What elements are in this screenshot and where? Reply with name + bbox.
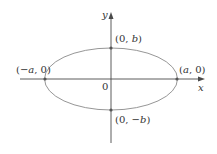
vertex-point-left [43, 77, 46, 80]
origin-label: 0 [102, 81, 108, 92]
vertex-point-right [175, 77, 178, 80]
x-axis-arrow-icon [198, 77, 205, 82]
y-axis-label: y [101, 9, 108, 20]
x-axis-label: x [198, 82, 204, 93]
point-label-right: (a, 0) [179, 64, 206, 75]
vertex-point-top [109, 46, 112, 49]
vertex-point-bottom [109, 108, 112, 111]
ellipse-diagram: y x 0 (0, b) (0, −b) (−a, 0) (a, 0) [0, 0, 217, 154]
point-label-top: (0, b) [115, 33, 142, 44]
point-label-left: (−a, 0) [16, 64, 51, 75]
y-axis-arrow-icon [109, 12, 114, 19]
point-label-bottom: (0, −b) [115, 114, 150, 125]
